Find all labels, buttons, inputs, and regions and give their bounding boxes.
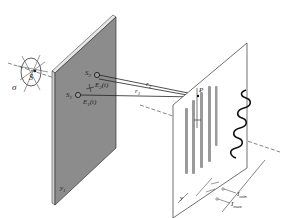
source-aperture bbox=[18, 55, 48, 92]
r2-label: r2 bbox=[146, 80, 152, 89]
slit-s1 bbox=[75, 92, 80, 97]
aperture-screen bbox=[52, 15, 116, 205]
source-label: S bbox=[29, 73, 33, 82]
i-max-label: Imax bbox=[230, 200, 242, 209]
double-slit-diagram: S σ S2 S1 E2(t) E1(t) y1 r2 r1 bbox=[0, 0, 285, 218]
slit-s2 bbox=[94, 72, 99, 77]
aperture-sigma-label: σ bbox=[12, 82, 17, 92]
r1-label: r1 bbox=[135, 87, 140, 96]
point-source-icon bbox=[34, 70, 37, 73]
field-e2-label: E2(t) bbox=[94, 81, 109, 90]
i-min-label: Imin bbox=[236, 190, 247, 199]
field-e1-label: E1(t) bbox=[82, 98, 97, 107]
point-p-label: P bbox=[198, 86, 204, 94]
